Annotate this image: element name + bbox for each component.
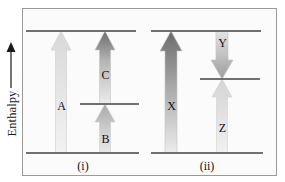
arrow-label-A: A [55, 100, 68, 112]
diagram-canvas [23, 9, 276, 175]
panel-ii-baseline-level [151, 152, 263, 154]
enthalpy-diagram-figure: Enthalpy [0, 0, 285, 182]
up-arrow-icon [3, 42, 21, 88]
plot-area: A B C X Y Z (i) (ii) [22, 8, 277, 176]
arrow-X [160, 31, 182, 153]
y-axis-label-group: Enthalpy [0, 0, 24, 182]
arrow-label-Y: Y [216, 37, 229, 49]
y-axis-label-text: Enthalpy [5, 91, 20, 137]
panel-ii-upper-level [151, 30, 261, 32]
panel-ii-middle-level [200, 78, 260, 80]
panel-i-upper-level [26, 30, 136, 32]
panel-caption-i: (i) [63, 159, 103, 174]
arrow-label-Z: Z [216, 122, 229, 134]
panel-i-baseline-level [26, 152, 139, 154]
arrow-label-X: X [165, 100, 178, 112]
arrow-label-C: C [99, 69, 112, 81]
panel-i-middle-level [80, 103, 139, 105]
arrow-A [51, 31, 71, 153]
arrow-Z [212, 79, 232, 153]
arrow-label-B: B [99, 133, 112, 145]
panel-caption-ii: (ii) [187, 159, 227, 174]
